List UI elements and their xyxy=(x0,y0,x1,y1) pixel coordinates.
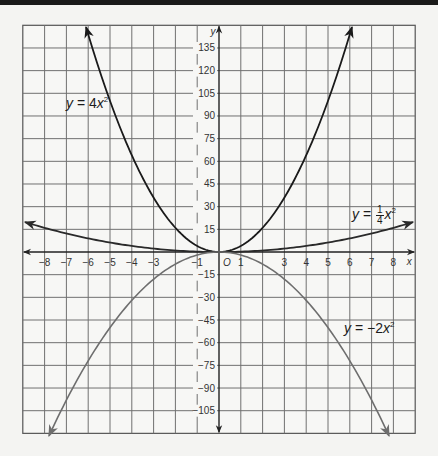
x-tick-label: 6 xyxy=(347,257,353,268)
y-tick-label: −75 xyxy=(198,360,215,371)
label-lhs: y xyxy=(352,206,359,222)
y-tick-label: 120 xyxy=(198,65,215,76)
y-tick-label: 105 xyxy=(198,88,215,99)
x-tick-label: −4 xyxy=(126,257,138,268)
y-tick-label: −45 xyxy=(198,315,215,326)
label-eq: = −2 xyxy=(351,320,383,336)
x-tick-label: 1 xyxy=(238,257,244,268)
label-y-equals-4x2: y = 4x2 xyxy=(66,95,108,111)
y-tick-label: 45 xyxy=(204,178,216,189)
origin-label: O xyxy=(223,257,231,268)
parabola-chart: −8−7−6−5−4−3−113456781351201059075604530… xyxy=(0,0,438,456)
x-tick-label: 3 xyxy=(282,257,288,268)
x-tick-label: −3 xyxy=(148,257,160,268)
x-tick-label: −8 xyxy=(39,257,51,268)
fraction-denominator: 4 xyxy=(376,216,384,226)
y-tick-label: −30 xyxy=(198,292,215,303)
y-tick-label: 30 xyxy=(204,201,216,212)
x-tick-label: 4 xyxy=(303,257,309,268)
label-exp: 2 xyxy=(104,95,108,104)
y-tick-label: −15 xyxy=(198,269,215,280)
x-axis-name: x xyxy=(406,256,413,267)
x-tick-label: 8 xyxy=(391,257,397,268)
x-tick-label: −5 xyxy=(104,257,116,268)
y-tick-label: 75 xyxy=(204,133,216,144)
y-tick-label: 60 xyxy=(204,156,216,167)
y-tick-label: 135 xyxy=(198,42,215,53)
x-tick-label: −6 xyxy=(82,257,94,268)
y-tick-label: 15 xyxy=(204,224,216,235)
label-var: x xyxy=(385,206,392,222)
label-var: x xyxy=(383,320,390,336)
fraction: 14 xyxy=(376,205,384,226)
y-axis-name: y xyxy=(210,26,217,37)
x-tick-label: −1 xyxy=(191,257,203,268)
label-y-equals-neg-2x2: y = −2x2 xyxy=(344,320,394,336)
y-tick-label: −105 xyxy=(192,405,215,416)
label-y-equals-quarter-x2: y = 14x2 xyxy=(352,205,396,226)
label-eq: = xyxy=(359,206,375,222)
label-lhs: y xyxy=(344,320,351,336)
x-tick-label: −7 xyxy=(61,257,73,268)
label-exp: 2 xyxy=(390,320,394,329)
chart-canvas: −8−7−6−5−4−3−113456781351201059075604530… xyxy=(0,0,438,456)
label-lhs: y xyxy=(66,95,73,111)
y-tick-label: −60 xyxy=(198,337,215,348)
x-tick-label: 5 xyxy=(325,257,331,268)
x-tick-label: 7 xyxy=(369,257,375,268)
y-tick-label: −90 xyxy=(198,383,215,394)
label-var: x xyxy=(97,95,104,111)
label-eq: = 4 xyxy=(73,95,97,111)
label-exp: 2 xyxy=(392,206,396,215)
y-tick-label: 90 xyxy=(204,110,216,121)
